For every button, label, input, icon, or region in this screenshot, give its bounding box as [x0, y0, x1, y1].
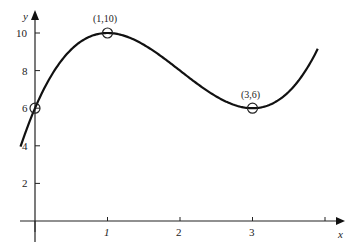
function-curve [21, 33, 318, 147]
y-tick-label-6: 6 [22, 102, 28, 114]
function-graph: x y 2 4 6 8 10 1 2 3 (1,10) (3,6) [0, 0, 360, 251]
y-tick-label-2: 2 [22, 177, 28, 189]
x-tick-label-1: 1 [104, 226, 110, 238]
x-tick-label-3: 3 [249, 226, 255, 238]
point-label-min: (3,6) [241, 89, 260, 101]
x-axis-label: x [337, 228, 343, 240]
x-tick-label-2: 2 [176, 226, 182, 238]
x-axis-arrow-icon [336, 217, 345, 225]
point-label-max: (1,10) [93, 13, 117, 25]
y-axis-label: y [22, 10, 28, 22]
y-tick-label-8: 8 [22, 65, 28, 77]
y-axis-arrow-icon [31, 10, 39, 20]
y-tick-label-10: 10 [16, 27, 28, 39]
